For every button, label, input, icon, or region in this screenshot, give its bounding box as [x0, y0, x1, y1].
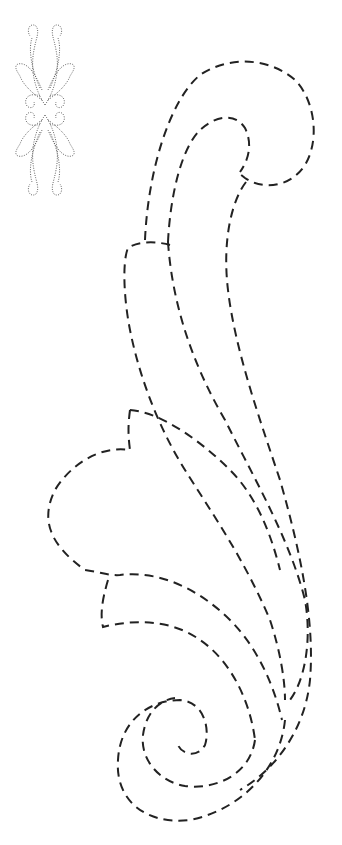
bottom-spiral-inner: [143, 698, 255, 787]
middle-leaf-top: [130, 410, 280, 570]
upper-leaf: [124, 242, 285, 700]
inner-scroll-curl: [168, 118, 249, 242]
lower-leaf: [102, 580, 255, 740]
middle-leaf: [48, 410, 282, 720]
inner-stem: [168, 242, 308, 700]
right-stem: [226, 182, 311, 790]
scroll-pattern: [0, 0, 342, 845]
bottom-spiral: [118, 700, 285, 821]
outer-scroll-curl: [145, 62, 314, 240]
